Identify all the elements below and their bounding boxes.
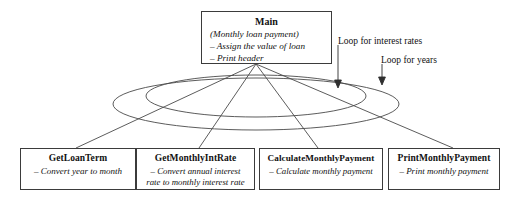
module-description: – Calculate monthly payment bbox=[263, 166, 379, 178]
connector-main-to-printmonthlypayment bbox=[256, 64, 453, 148]
module-title: CalculateMonthlyPayment bbox=[263, 152, 379, 164]
module-box-getmonthlyintrate[interactable]: GetMonthlyIntRate – Convert annual inter… bbox=[136, 148, 255, 190]
module-description-line: (Monthly loan payment) bbox=[210, 29, 325, 41]
connector-main-to-getloanterm bbox=[76, 64, 256, 148]
module-title: GetLoanTerm bbox=[24, 152, 132, 164]
module-description-line: – Assign the value of loan bbox=[210, 41, 325, 53]
connector-main-to-calculatemonthlypayment bbox=[256, 64, 318, 148]
connector-main-to-getmonthlyintrate bbox=[199, 64, 256, 148]
module-description-line: – Convert year to month bbox=[24, 166, 132, 178]
loop-ellipse-interest-rates bbox=[146, 75, 366, 117]
module-description-line: rate to monthly interest rate bbox=[140, 177, 251, 188]
loop-label-interest-rates: Loop for interest rates bbox=[338, 35, 422, 47]
module-box-printmonthlypayment[interactable]: PrintMonthlyPayment – Print monthly paym… bbox=[388, 148, 500, 190]
loop-ellipse-years bbox=[113, 78, 399, 130]
module-title: Main bbox=[208, 15, 325, 28]
module-description: – Convert annual interest rate to monthl… bbox=[140, 166, 251, 188]
module-description-line: – Print monthly payment bbox=[392, 166, 496, 178]
module-description: (Monthly loan payment) – Assign the valu… bbox=[208, 29, 325, 64]
module-box-main[interactable]: Main (Monthly loan payment) – Assign the… bbox=[201, 11, 332, 64]
loop-label-years: Loop for years bbox=[381, 54, 437, 66]
module-description: – Convert year to month bbox=[24, 166, 132, 178]
structure-chart-diagram: Main (Monthly loan payment) – Assign the… bbox=[0, 0, 520, 202]
arrow-head-interest-rates bbox=[335, 80, 342, 88]
module-description: – Print monthly payment bbox=[392, 166, 496, 178]
module-description-line: – Convert annual interest bbox=[140, 166, 251, 177]
module-box-calculatemonthlypayment[interactable]: CalculateMonthlyPayment – Calculate mont… bbox=[259, 148, 383, 190]
module-description-line: – Calculate monthly payment bbox=[263, 166, 379, 178]
module-description-line: – Print header bbox=[210, 53, 325, 65]
module-title: PrintMonthlyPayment bbox=[392, 152, 496, 164]
module-box-getloanterm[interactable]: GetLoanTerm – Convert year to month bbox=[20, 148, 136, 190]
arrow-head-years bbox=[379, 77, 386, 85]
module-title: GetMonthlyIntRate bbox=[140, 152, 251, 164]
